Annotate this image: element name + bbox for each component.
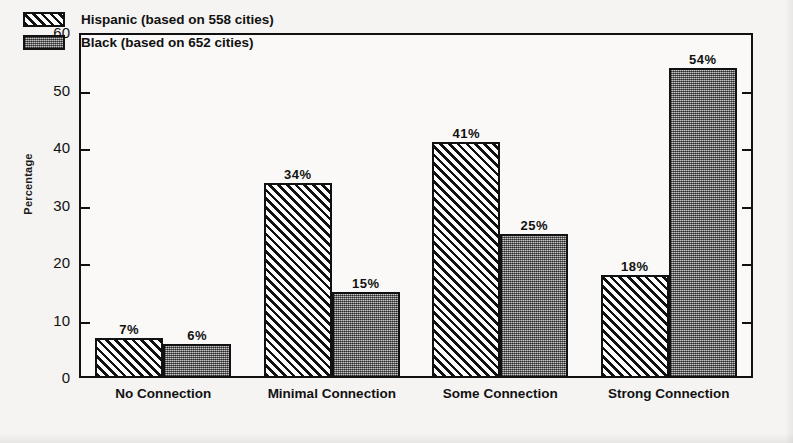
chart-page: Percentage 0102030405060 7%6%34%15%41%25… (0, 0, 793, 443)
bar-black-minimal-connection: 15% (332, 292, 400, 378)
legend-swatch-hispanic (23, 12, 65, 27)
bar-value-label: 25% (520, 218, 548, 233)
bar-value-label: 15% (352, 276, 380, 291)
legend-label: Hispanic (based on 558 cities) (81, 12, 274, 27)
chart-legend: Hispanic (based on 558 cities)Black (bas… (23, 8, 323, 54)
y-tick-label: 30 (28, 197, 70, 214)
legend-swatch-black (23, 35, 65, 50)
y-tick-label: 0 (28, 369, 70, 386)
x-tick-label-no-connection: No Connection (115, 386, 211, 401)
y-tick-label: 20 (28, 254, 70, 271)
bar-value-label: 18% (621, 259, 649, 274)
bar-value-label: 54% (689, 52, 717, 67)
x-tick-label-some-connection: Some Connection (443, 386, 558, 401)
bar-hispanic-no-connection: 7% (95, 338, 163, 378)
bar-value-label: 34% (284, 167, 312, 182)
bars-layer: 7%6%34%15%41%25%18%54% (79, 33, 753, 378)
bar-black-some-connection: 25% (500, 234, 568, 378)
bar-hispanic-strong-connection: 18% (601, 275, 669, 379)
bar-value-label: 41% (452, 126, 480, 141)
y-tick-label: 40 (28, 139, 70, 156)
legend-item-hispanic: Hispanic (based on 558 cities) (23, 8, 323, 31)
bar-value-label: 7% (119, 322, 139, 337)
x-tick-label-minimal-connection: Minimal Connection (268, 386, 396, 401)
bar-value-label: 6% (187, 328, 207, 343)
scan-edge-bottom (0, 433, 793, 443)
bar-black-no-connection: 6% (163, 344, 231, 379)
x-axis-tick-labels: No ConnectionMinimal ConnectionSome Conn… (79, 386, 753, 410)
bar-hispanic-minimal-connection: 34% (264, 183, 332, 379)
legend-item-black: Black (based on 652 cities) (23, 31, 323, 54)
bar-hispanic-some-connection: 41% (432, 142, 500, 378)
y-axis-tick-labels: 0102030405060 (18, 0, 70, 443)
bar-black-strong-connection: 54% (669, 68, 737, 379)
y-tick-label: 50 (28, 82, 70, 99)
y-tick-label: 10 (28, 312, 70, 329)
x-tick-label-strong-connection: Strong Connection (608, 386, 730, 401)
scan-edge-right (785, 0, 793, 443)
legend-label: Black (based on 652 cities) (81, 35, 254, 50)
